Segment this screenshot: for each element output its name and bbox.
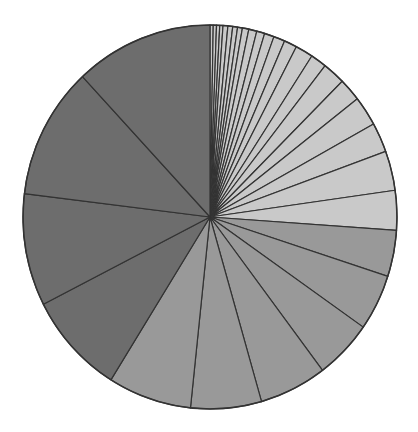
pie-chart-canvas [0,0,418,432]
pie-slices [23,25,397,409]
pie-chart [0,0,418,432]
